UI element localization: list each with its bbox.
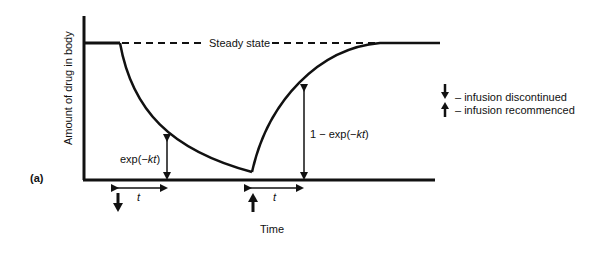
arrow-down-icon (113, 193, 123, 212)
interval-label-2: t (273, 191, 277, 203)
panel-label: (a) (30, 172, 44, 184)
pharmacokinetic-diagram: Amount of drug in body Steady state exp(… (0, 0, 594, 259)
legend: – infusion discontinued – infusion recom… (441, 84, 575, 117)
y-axis-label: Amount of drug in body (62, 31, 74, 145)
decay-label: exp(−kt) (120, 153, 160, 165)
x-axis-label: Time (260, 223, 284, 235)
recovery-label: 1 − exp(−kt) (310, 128, 369, 140)
legend-recommenced: – infusion recommenced (455, 104, 575, 116)
steady-state-label: Steady state (209, 37, 270, 49)
arrow-up-icon (248, 193, 258, 212)
recovery-curve (252, 43, 440, 172)
legend-discontinued: – infusion discontinued (455, 91, 567, 103)
legend-arrow-down-icon (441, 84, 449, 99)
legend-arrow-up-icon (441, 102, 449, 117)
interval-label-1: t (137, 191, 141, 203)
